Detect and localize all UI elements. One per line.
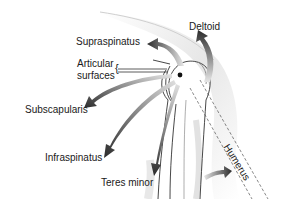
articular-brace: { [115, 63, 119, 74]
label-teres-minor: Teres minor [101, 177, 153, 188]
label-supraspinatus: Supraspinatus [76, 36, 140, 47]
label-articular-line1: Articular [77, 58, 114, 69]
articular-pointer-lines [118, 69, 167, 72]
humeral-head [169, 61, 210, 199]
teres-minor-arrow [151, 84, 180, 176]
label-subscapularis: Subscapularis [25, 104, 88, 115]
label-articular-line2: surfaces [77, 70, 115, 81]
shoulder-diagram: Deltoid Supraspinatus Articular surfaces… [0, 0, 286, 199]
center-of-rotation-dot [178, 73, 183, 78]
label-deltoid: Deltoid [189, 21, 220, 32]
label-infraspinatus: Infraspinatus [45, 152, 102, 163]
